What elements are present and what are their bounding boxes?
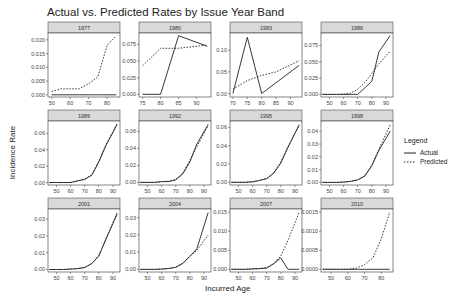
y-tick-label: 0.01 — [125, 249, 136, 255]
facet-panel-1980: 1980758085900.0000.0250.0500.075 — [122, 22, 211, 106]
facet-panel-1986: 198650607080900.0000.0250.0500.075 — [304, 22, 393, 106]
x-tick-label: 80 — [96, 275, 102, 281]
plot-area — [321, 121, 393, 185]
y-tick-label: 0.04 — [216, 143, 227, 149]
x-tick-label: 80 — [278, 188, 284, 194]
y-tick-label: 0.04 — [125, 145, 136, 151]
plot-area — [48, 121, 120, 185]
facet-panel-1989: 198950607080900.000.020.040.06 — [34, 110, 120, 194]
x-tick-label: 60 — [341, 100, 347, 106]
y-tick-label: 0.005 — [31, 78, 45, 84]
y-tick-label: 0.0010 — [301, 228, 318, 234]
y-tick-label: 0.02 — [216, 161, 227, 167]
y-tick-label: 0.03 — [34, 216, 45, 222]
x-tick-label: 75 — [244, 100, 250, 106]
y-tick-label: 0.03 — [125, 215, 136, 221]
y-tick-label: 0.00 — [34, 266, 45, 272]
x-tick-label: 70 — [86, 100, 92, 106]
plot-area — [48, 33, 120, 97]
x-tick-label: 85 — [273, 100, 279, 106]
y-tick-label: 0.03 — [307, 141, 318, 147]
y-tick-label: 0.01 — [307, 167, 318, 173]
x-tick-label: 60 — [341, 188, 347, 194]
x-tick-label: 50 — [53, 188, 59, 194]
x-tick-label: 70 — [355, 100, 361, 106]
plot-area — [230, 209, 302, 272]
x-tick-label: 70 — [173, 275, 179, 281]
plot-area — [321, 209, 393, 272]
x-tick-label: 50 — [235, 188, 241, 194]
x-tick-label: 80 — [369, 188, 375, 194]
plot-area — [139, 121, 211, 185]
facet-strip-label: 2001 — [78, 201, 90, 207]
x-tick-label: 90 — [110, 275, 116, 281]
x-tick-label: 70 — [173, 188, 179, 194]
x-tick-label: 60 — [345, 275, 351, 281]
y-tick-label: 0.000 — [213, 266, 227, 272]
y-tick-label: 0.06 — [216, 124, 227, 130]
y-tick-label: 0.0015 — [301, 209, 318, 215]
y-tick-label: 0.01 — [34, 250, 45, 256]
facet-strip-label: 1995 — [260, 113, 272, 119]
y-tick-label: 0.02 — [125, 162, 136, 168]
facet-panel-2010: 2010506070800.00000.00050.00100.0015 — [301, 198, 393, 281]
x-tick-label: 60 — [68, 188, 74, 194]
y-tick-label: 0.10 — [216, 47, 227, 53]
facet-strip-label: 1998 — [351, 113, 363, 119]
y-tick-label: 0.075 — [122, 41, 136, 47]
facet-strip-label: 1980 — [169, 25, 181, 31]
plot-area — [139, 209, 211, 272]
facet-panel-1983: 198370758085900.000.050.10 — [216, 22, 302, 106]
facet-strip-label: 1983 — [260, 25, 272, 31]
y-tick-label: 0.02 — [34, 163, 45, 169]
x-tick-label: 90 — [383, 100, 389, 106]
x-tick-label: 70 — [264, 275, 270, 281]
x-tick-label: 50 — [49, 100, 55, 106]
x-tick-label: 90 — [383, 188, 389, 194]
x-tick-label: 75 — [140, 100, 146, 106]
y-tick-label: 0.0000 — [301, 266, 318, 272]
y-tick-label: 0.02 — [307, 154, 318, 160]
x-tick-label: 60 — [68, 275, 74, 281]
plot-area — [230, 121, 302, 185]
x-tick-label: 80 — [369, 100, 375, 106]
plot-area — [321, 33, 393, 97]
x-tick-label: 80 — [104, 100, 110, 106]
facet-strip-label: 2007 — [260, 201, 272, 207]
x-tick-label: 70 — [230, 100, 236, 106]
plot-area — [48, 209, 120, 272]
facet-panel-2004: 200450607080900.000.010.020.03 — [125, 198, 211, 281]
y-tick-label: 0.015 — [213, 209, 227, 215]
y-tick-label: 0.04 — [34, 147, 45, 153]
x-tick-label: 90 — [110, 188, 116, 194]
y-tick-label: 0.06 — [34, 130, 45, 136]
facet-strip-label: 2004 — [169, 201, 181, 207]
facet-panel-2007: 200750607080900.0000.0050.0100.015 — [213, 198, 302, 281]
x-tick-label: 70 — [264, 188, 270, 194]
x-tick-label: 70 — [82, 275, 88, 281]
facet-strip-label: 2010 — [351, 201, 363, 207]
y-tick-label: 0.02 — [125, 232, 136, 238]
y-tick-label: 0.020 — [31, 37, 45, 43]
facet-panel-1995: 199550607080900.000.020.040.06 — [216, 110, 302, 194]
x-tick-label: 80 — [158, 100, 164, 106]
facet-panel-2001: 200150607080900.000.010.020.03 — [34, 198, 120, 281]
x-tick-label: 50 — [144, 188, 150, 194]
x-tick-label: 50 — [328, 275, 334, 281]
y-tick-label: 0.000 — [31, 92, 45, 98]
facet-strip-label: 1977 — [78, 25, 90, 31]
x-tick-label: 90 — [194, 100, 200, 106]
x-tick-label: 70 — [82, 188, 88, 194]
y-tick-label: 0.00 — [125, 266, 136, 272]
facet-strip-label: 1992 — [169, 113, 181, 119]
y-tick-label: 0.015 — [31, 51, 45, 57]
x-tick-label: 90 — [201, 275, 207, 281]
y-tick-label: 0.00 — [34, 180, 45, 186]
y-tick-label: 0.05 — [216, 69, 227, 75]
facet-panel-1998: 199850607080900.000.010.020.030.04 — [307, 110, 393, 194]
y-tick-label: 0.06 — [125, 128, 136, 134]
y-tick-label: 0.000 — [122, 91, 136, 97]
facet-panel-1992: 199250607080900.000.020.040.06 — [125, 110, 211, 194]
x-tick-label: 80 — [187, 188, 193, 194]
x-tick-label: 50 — [326, 100, 332, 106]
